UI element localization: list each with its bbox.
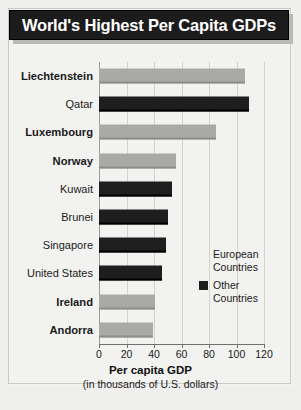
- chart-figure: World's Highest Per Capita GDPs Liechten…: [0, 0, 301, 410]
- bar-fill: [99, 294, 155, 309]
- title-banner: World's Highest Per Capita GDPs: [9, 10, 289, 40]
- bar: [99, 294, 155, 309]
- bar-category-label: Brunei: [61, 211, 93, 223]
- bar-category-label: Kuwait: [60, 183, 93, 195]
- bar-row: Liechtenstein: [0, 62, 301, 90]
- bar-category-label: Liechtenstein: [21, 70, 93, 82]
- bar: [99, 266, 162, 281]
- bar-row: Luxembourg: [0, 118, 301, 146]
- bar-row: Kuwait: [0, 175, 301, 203]
- x-axis-tick-label: 100: [228, 348, 246, 360]
- x-axis-tick-label: 80: [203, 348, 215, 360]
- x-axis-tick-label: 120: [255, 348, 273, 360]
- bar-fill: [99, 153, 176, 168]
- legend-item: Other Countries: [199, 279, 259, 304]
- legend-swatch-other: [199, 281, 208, 290]
- x-axis-title: Per capita GDP: [0, 364, 301, 376]
- legend-item: European Countries: [199, 248, 259, 273]
- bar-fill: [99, 266, 162, 281]
- bar: [99, 210, 168, 225]
- bar-row: Brunei: [0, 203, 301, 231]
- bar: [99, 181, 172, 196]
- bar-fill: [99, 238, 166, 253]
- x-axis-subtitle: (in thousands of U.S. dollars): [0, 378, 301, 390]
- legend-label: Other Countries: [213, 279, 258, 304]
- bar: [99, 153, 176, 168]
- bar-category-label: Ireland: [56, 296, 93, 308]
- bar-category-label: Singapore: [43, 239, 93, 251]
- x-axis-tick-label: 60: [176, 348, 188, 360]
- bar-category-label: Qatar: [65, 98, 93, 110]
- bar-row: Qatar: [0, 90, 301, 118]
- bar: [99, 238, 166, 253]
- bar-category-label: United States: [27, 267, 93, 279]
- bar: [99, 97, 249, 112]
- legend-label: European Countries: [213, 248, 259, 273]
- bar-fill: [99, 322, 153, 337]
- x-axis-tick-label: 40: [148, 348, 160, 360]
- x-axis-tick-label: 20: [121, 348, 133, 360]
- bar-fill: [99, 210, 168, 225]
- legend-swatch-european: [199, 250, 208, 259]
- bar-category-label: Andorra: [49, 324, 93, 336]
- bar-category-label: Luxembourg: [25, 126, 93, 138]
- bar: [99, 69, 245, 84]
- bar-fill: [99, 69, 245, 84]
- bar-row: Norway: [0, 147, 301, 175]
- bar: [99, 125, 216, 140]
- bar-fill: [99, 125, 216, 140]
- x-axis-tick-label: 0: [96, 348, 102, 360]
- chart-title: World's Highest Per Capita GDPs: [22, 16, 276, 35]
- bar-category-label: Norway: [53, 155, 93, 167]
- chart-legend: European CountriesOther Countries: [199, 248, 259, 310]
- bar-fill: [99, 97, 249, 112]
- bar: [99, 322, 153, 337]
- bar-fill: [99, 181, 172, 196]
- bar-row: Andorra: [0, 316, 301, 344]
